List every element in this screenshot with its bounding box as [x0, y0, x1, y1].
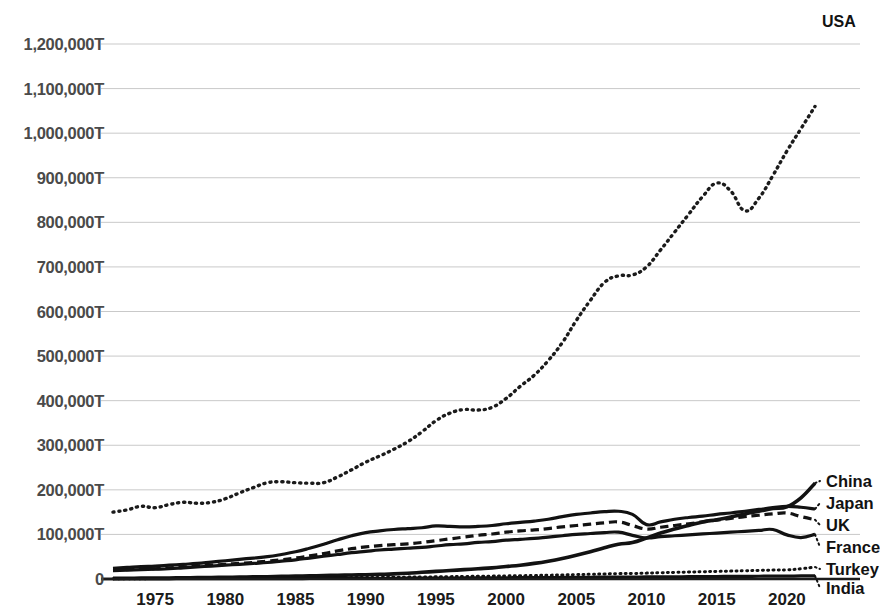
x-axis-tick-label: 2010 [628, 591, 666, 608]
series-label-china: China [826, 473, 872, 490]
label-leader-uk [815, 520, 820, 525]
series-label-usa: USA [822, 14, 856, 30]
y-axis-tick-label: 1,200,000T [24, 36, 104, 53]
series-label-india: India [826, 580, 865, 597]
label-leader-france [815, 534, 820, 547]
series-label-uk: UK [826, 517, 850, 534]
series-line-france [113, 529, 815, 570]
series-label-france: France [826, 539, 880, 556]
y-axis-tick-label: 400,000T [37, 393, 104, 410]
y-axis-tick-label: 800,000T [37, 214, 104, 231]
label-leader-japan [815, 503, 820, 509]
gridline-group [113, 44, 860, 534]
x-axis-tick-label: 1995 [417, 591, 455, 608]
x-axis-tick-label: 2005 [557, 591, 595, 608]
x-axis-tick-label: 1975 [136, 591, 174, 608]
x-axis-tick-label: 1985 [277, 591, 315, 608]
y-axis-tick-label: 700,000T [37, 259, 104, 276]
x-axis-tick-label: 2020 [768, 591, 806, 608]
y-axis-tick-label: 900,000T [37, 170, 104, 187]
y-axis-tick-label: 1,000,000T [24, 125, 104, 142]
series-label-turkey: Turkey [826, 561, 879, 578]
series-line-usa [113, 106, 815, 512]
label-leader-india [815, 576, 820, 588]
x-axis-tick-label: 2000 [487, 591, 525, 608]
y-axis-tick-label: 300,000T [37, 437, 104, 454]
series-line-japan [113, 506, 815, 568]
x-axis-tick-label: 1990 [347, 591, 385, 608]
label-leader-turkey [815, 567, 820, 569]
y-axis-tick-label: 1,100,000T [24, 81, 104, 98]
series-label-japan: Japan [826, 495, 874, 512]
y-axis-tick-label: 200,000T [37, 482, 104, 499]
y-axis-tick-label: 0 [95, 571, 104, 588]
y-axis-tick-label: 100,000T [37, 526, 104, 543]
y-axis-tick-label: 600,000T [37, 304, 104, 321]
x-axis-tick-label: 1980 [206, 591, 244, 608]
y-axis-tick-label: 500,000T [37, 348, 104, 365]
x-axis-tick-label: 2015 [698, 591, 736, 608]
label-leader-china [815, 481, 820, 483]
